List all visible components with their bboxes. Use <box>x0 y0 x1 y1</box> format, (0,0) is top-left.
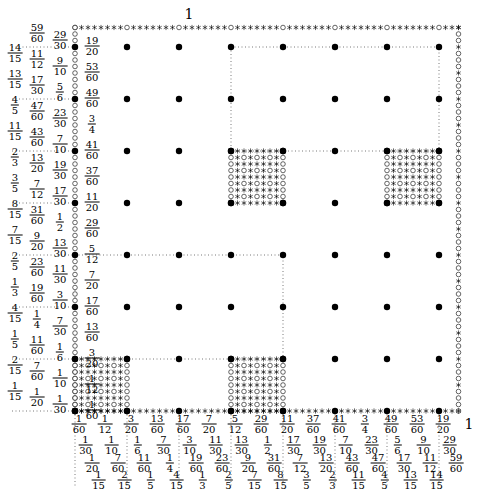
numerator: 9 <box>244 453 252 463</box>
numerator: 1 <box>11 328 19 338</box>
numerator: 37 <box>85 166 100 176</box>
numerator: 7 <box>88 270 96 280</box>
numerator: 19 <box>312 435 327 445</box>
numerator: 4 <box>380 470 388 480</box>
numerator: 7 <box>56 315 64 325</box>
numerator: 7 <box>11 224 19 234</box>
y-axis-label: 920 <box>30 231 45 252</box>
numerator: 29 <box>254 414 269 424</box>
y-axis-label: 4760 <box>30 101 45 122</box>
numerator: 3 <box>302 470 310 480</box>
denominator: 60 <box>85 150 100 161</box>
denominator: 15 <box>273 480 288 491</box>
numerator: 17 <box>286 435 301 445</box>
numerator: 11 <box>423 453 438 463</box>
right-one-label: 1 <box>465 417 474 431</box>
numerator: 7 <box>56 133 64 143</box>
numerator: 29 <box>442 435 457 445</box>
numerator: 8 <box>11 198 19 208</box>
numerator: 19 <box>189 453 204 463</box>
y-axis-label: 730 <box>53 315 68 336</box>
numerator: 17 <box>176 414 191 424</box>
y-axis-label: 710 <box>53 133 68 154</box>
denominator: 12 <box>30 59 45 70</box>
denominator: 6 <box>56 351 64 362</box>
y-axis-label: 215 <box>8 354 23 375</box>
denominator: 60 <box>30 267 45 278</box>
x-axis-label: 4960 <box>384 414 399 435</box>
numerator: 1 <box>263 435 271 445</box>
y-axis-label: 715 <box>8 224 23 245</box>
numerator: 1 <box>166 453 174 463</box>
numerator: 19 <box>85 36 100 46</box>
y-axis-label: 130 <box>53 393 68 414</box>
numerator: 7 <box>33 179 41 189</box>
numerator: 3 <box>56 289 64 299</box>
numerator: 11 <box>30 49 45 59</box>
x-axis-label: 1415 <box>429 470 444 491</box>
numerator: 2 <box>328 470 336 480</box>
denominator: 60 <box>85 176 100 187</box>
numerator: 11 <box>208 435 223 445</box>
denominator: 15 <box>91 480 106 491</box>
y-axis-label: 1160 <box>30 335 45 356</box>
denominator: 10 <box>53 65 68 76</box>
denominator: 60 <box>85 306 100 317</box>
y-axis-label: 56 <box>56 81 64 102</box>
denominator: 15 <box>351 480 366 491</box>
y-axis-label: 1930 <box>53 159 68 180</box>
denominator: 5 <box>380 480 388 491</box>
x-axis-label: 512 <box>228 414 243 435</box>
denominator: 10 <box>53 299 68 310</box>
denominator: 60 <box>85 228 100 239</box>
denominator: 3 <box>11 156 19 167</box>
denominator: 20 <box>30 163 45 174</box>
numerator: 43 <box>345 453 360 463</box>
x-axis-label: 115 <box>91 470 106 491</box>
x-axis-label: 415 <box>169 470 184 491</box>
numerator: 1 <box>56 341 64 351</box>
numerator: 1 <box>107 435 115 445</box>
y-axis-label: 1415 <box>8 42 23 63</box>
numerator: 13 <box>319 453 334 463</box>
denominator: 5 <box>11 260 19 271</box>
denominator: 30 <box>53 169 68 180</box>
numerator: 53 <box>85 62 100 72</box>
fraction-grid-diagram: 1920536049603441603760112029605127201760… <box>0 0 479 492</box>
numerator: 1 <box>88 400 96 410</box>
numerator: 5 <box>56 81 64 91</box>
denominator: 60 <box>85 72 100 83</box>
x-axis-label: 1920 <box>436 414 451 435</box>
y-axis-label: 1120 <box>85 192 100 213</box>
numerator: 37 <box>306 414 321 424</box>
y-axis-label: 1960 <box>30 283 45 304</box>
denominator: 60 <box>30 293 45 304</box>
numerator: 5 <box>393 435 401 445</box>
numerator: 13 <box>150 414 165 424</box>
y-axis-label: 13 <box>11 276 19 297</box>
x-axis-label: 1760 <box>176 414 191 435</box>
denominator: 60 <box>449 463 464 474</box>
y-axis-label: 4960 <box>85 88 100 109</box>
numerator: 41 <box>332 414 347 424</box>
y-axis-label: 16 <box>56 341 64 362</box>
y-axis-label: 760 <box>30 361 45 382</box>
numerator: 17 <box>85 296 100 306</box>
denominator: 10 <box>53 377 68 388</box>
x-axis-label: 35 <box>302 470 310 491</box>
numerator: 3 <box>361 414 369 424</box>
x-axis-label: 815 <box>273 470 288 491</box>
numerator: 47 <box>30 101 45 111</box>
numerator: 19 <box>53 159 68 169</box>
denominator: 12 <box>85 384 100 395</box>
y-axis-label: 34 <box>88 114 96 135</box>
numerator: 11 <box>280 414 295 424</box>
denominator: 3 <box>198 480 206 491</box>
numerator: 2 <box>11 250 19 260</box>
numerator: 1 <box>88 374 96 384</box>
y-axis-label: 3760 <box>85 166 100 187</box>
denominator: 20 <box>85 280 100 291</box>
numerator: 23 <box>30 257 45 267</box>
y-axis-label: 1330 <box>53 237 68 258</box>
denominator: 5 <box>11 338 19 349</box>
